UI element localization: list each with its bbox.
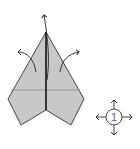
step-number: 1 bbox=[111, 111, 117, 123]
rotate-symbol: 1 bbox=[96, 100, 132, 135]
origami-diagram: 1 bbox=[0, 0, 140, 149]
paper-airplane-shape bbox=[8, 32, 84, 125]
